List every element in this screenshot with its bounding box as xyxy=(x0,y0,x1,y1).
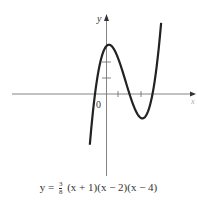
x-axis-arrow-icon xyxy=(190,92,196,97)
equation-caption: y = 3 8 (x + 1)(x − 2)(x − 4) xyxy=(0,181,197,196)
fraction-3-8: 3 8 xyxy=(59,181,63,196)
x-axis-label: x xyxy=(190,97,195,106)
y-axis-label: y xyxy=(96,13,102,24)
caption-prefix: y = xyxy=(40,181,54,193)
cubic-graph: y x 0 xyxy=(0,0,197,204)
origin-label: 0 xyxy=(96,99,101,110)
y-axis-arrow-icon xyxy=(104,14,109,21)
caption-factors: (x + 1)(x − 2)(x − 4) xyxy=(67,181,157,193)
cubic-curve xyxy=(90,23,161,145)
